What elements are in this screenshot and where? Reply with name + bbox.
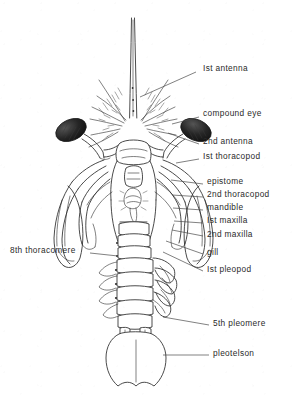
label-second-antenna: 2nd antenna	[203, 137, 253, 145]
label-second-maxilla: 2nd maxilla	[207, 230, 253, 238]
label-fifth-pleomere: 5th pleomere	[213, 319, 266, 327]
mouthparts	[119, 188, 148, 221]
label-first-thoracopod: Ist thoracopod	[203, 152, 260, 160]
label-second-thoracopod: 2nd thoracopod	[207, 190, 270, 198]
rostrum	[130, 18, 137, 118]
thoracomeres	[116, 222, 151, 261]
label-first-maxilla: Ist maxilla	[207, 216, 248, 224]
label-eighth-thoracomere: 8th thoracomere	[10, 246, 76, 254]
thoracopods-right	[155, 160, 213, 268]
first-antenna-left	[89, 80, 126, 147]
first-antenna-right	[141, 80, 178, 147]
pleopods-right	[153, 258, 177, 317]
label-mandible: mandible	[207, 203, 243, 211]
compound-eye-left	[52, 114, 123, 160]
pleotelson	[106, 332, 166, 386]
label-first-pleopod: Ist pleopod	[207, 265, 251, 273]
pleomeres	[115, 258, 153, 330]
label-pleotelson: pleotelson	[213, 349, 254, 357]
label-first-antenna: Ist antenna	[203, 64, 248, 72]
label-gill: gill	[207, 248, 219, 256]
label-epistome: epistome	[207, 177, 243, 185]
label-compound-eye: compound eye	[203, 109, 262, 117]
